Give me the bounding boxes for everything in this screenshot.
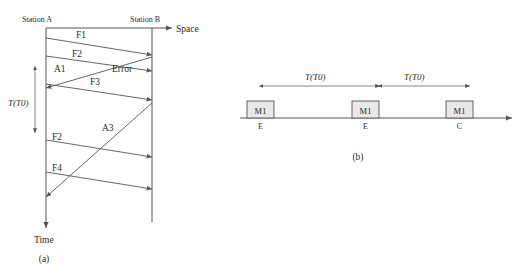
frame-label-f2-first: F2	[72, 49, 82, 59]
panel-b: T(T0) T(T0) M1 E M1 E M1 C	[240, 72, 512, 163]
interval-label-b2: T(T0)	[404, 72, 425, 82]
space-axis-label: Space	[176, 24, 199, 34]
event-box-label-2: M1	[360, 106, 372, 116]
figure-svg: Space Station A Station B Time T(T0) F1 …	[0, 0, 523, 273]
station-a-label: Station A	[22, 15, 52, 24]
panel-b-caption: (b)	[352, 152, 363, 163]
error-label: Error	[112, 64, 133, 74]
panel-a: Space Station A Station B Time T(T0) F1 …	[8, 15, 199, 265]
frame-label-f4: F4	[52, 163, 62, 173]
frame-line-f4	[46, 172, 152, 189]
event-state-label-1: E	[258, 122, 263, 131]
figure-container: Space Station A Station B Time T(T0) F1 …	[0, 0, 523, 273]
event-state-label-3: C	[457, 122, 462, 131]
frame-label-f1: F1	[76, 30, 86, 40]
event-box-label-3: M1	[454, 106, 466, 116]
frame-label-f2-retx: F2	[52, 132, 62, 142]
ack-line-a3	[46, 103, 152, 197]
frame-line-f1	[46, 38, 152, 55]
event-box-label-1: M1	[255, 106, 267, 116]
ack-label-a3: A3	[102, 123, 114, 133]
interval-label-a: T(T0)	[8, 98, 29, 108]
event-group-3: M1 C	[446, 101, 473, 131]
ack-label-a1: A1	[54, 64, 66, 74]
event-group-2: M1 E	[352, 101, 379, 131]
station-b-label: Station B	[130, 15, 160, 24]
frame-line-f2-retx	[46, 140, 152, 157]
time-axis-label: Time	[34, 235, 54, 245]
event-state-label-2: E	[363, 122, 368, 131]
panel-a-caption: (a)	[39, 254, 50, 265]
interval-label-b1: T(T0)	[305, 72, 326, 82]
frame-label-f3: F3	[90, 77, 100, 87]
event-group-1: M1 E	[247, 101, 274, 131]
